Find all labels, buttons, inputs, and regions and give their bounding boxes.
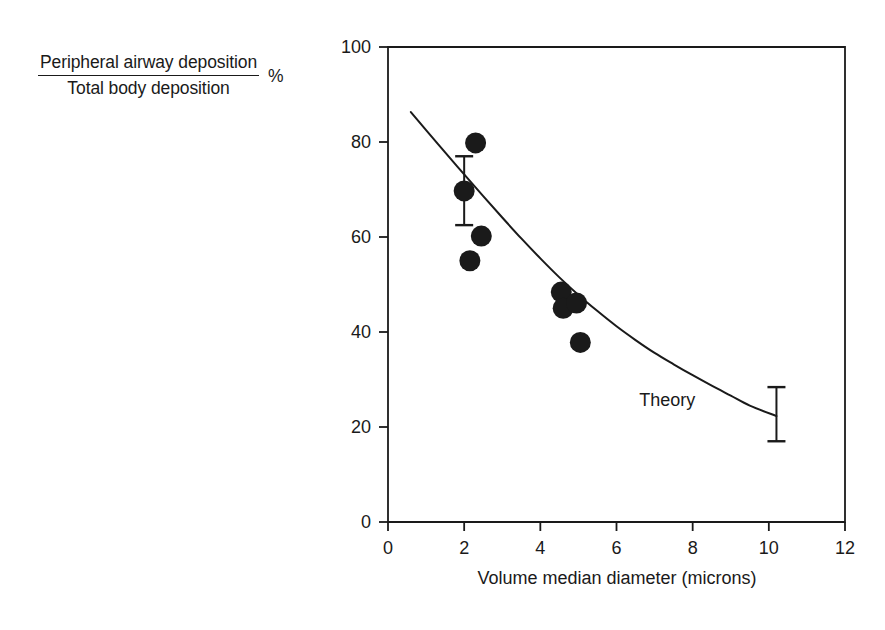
y-tick-label: 60	[351, 227, 371, 248]
data-point	[570, 332, 591, 353]
y-axis-label-fraction: Peripheral airway deposition Total body …	[38, 52, 259, 99]
x-tick-label: 10	[759, 538, 779, 559]
axes-frame	[388, 47, 845, 522]
y-tick-label: 80	[351, 132, 371, 153]
data-point	[566, 293, 587, 314]
data-point	[454, 180, 475, 201]
y-tick-label: 20	[351, 417, 371, 438]
data-point	[471, 226, 492, 247]
data-point	[465, 132, 486, 153]
x-tick-label: 12	[835, 538, 855, 559]
x-tick-label: 6	[611, 538, 621, 559]
x-tick-label: 0	[383, 538, 393, 559]
y-tick-label: 100	[341, 37, 371, 58]
x-axis-ticks	[388, 522, 845, 531]
x-tick-label: 4	[535, 538, 545, 559]
y-axis-label: Peripheral airway deposition Total body …	[38, 52, 284, 99]
chart-annotation: Theory	[639, 390, 695, 411]
data-points	[454, 132, 591, 353]
y-axis-units: %	[268, 66, 284, 87]
y-tick-label: 40	[351, 322, 371, 343]
x-axis-label: Volume median diameter (microns)	[477, 568, 756, 589]
y-axis-label-numerator: Peripheral airway deposition	[38, 52, 259, 75]
x-tick-label: 8	[688, 538, 698, 559]
y-axis-label-denominator: Total body deposition	[65, 76, 231, 99]
y-tick-label: 0	[361, 512, 371, 533]
chart-figure: Peripheral airway deposition Total body …	[0, 0, 885, 630]
y-axis-ticks	[379, 47, 388, 522]
data-point	[459, 250, 480, 271]
x-tick-label: 2	[459, 538, 469, 559]
